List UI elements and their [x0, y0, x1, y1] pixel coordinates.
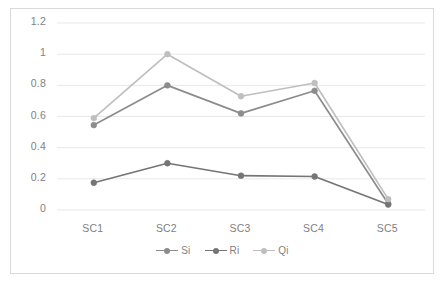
data-point-qi-sc3 — [238, 93, 244, 99]
data-point-si-sc4 — [312, 88, 318, 94]
legend-marker-icon — [205, 246, 227, 256]
y-axis-tick-label: 0 — [4, 202, 46, 214]
chart-plot-frame — [10, 8, 434, 274]
legend-marker-icon — [156, 246, 178, 256]
y-axis-tick-label: 1.2 — [4, 15, 46, 27]
data-point-ri-sc4 — [312, 174, 318, 180]
data-point-si-sc3 — [238, 110, 244, 116]
y-axis-tick-label: 0.8 — [4, 77, 46, 89]
y-axis-tick-label: 1 — [4, 46, 46, 58]
legend-label: Si — [181, 245, 190, 256]
series-line-si — [94, 85, 388, 203]
data-point-qi-sc4 — [312, 80, 318, 86]
data-point-ri-sc5 — [385, 202, 391, 208]
data-point-qi-sc5 — [385, 196, 391, 202]
legend-label: Qi — [278, 245, 288, 256]
data-point-qi-sc2 — [165, 51, 171, 57]
series-line-ri — [94, 163, 388, 204]
legend-item-si[interactable]: Si — [156, 245, 190, 256]
y-axis-tick-label: 0.2 — [4, 171, 46, 183]
y-axis-tick-label: 0.6 — [4, 109, 46, 121]
x-axis-tick-label: SC1 — [63, 222, 123, 234]
x-axis-tick-label: SC3 — [210, 222, 270, 234]
x-axis-tick-label: SC4 — [284, 222, 344, 234]
data-point-si-sc1 — [91, 122, 97, 128]
data-point-ri-sc3 — [238, 173, 244, 179]
data-point-ri-sc2 — [165, 160, 171, 166]
data-point-qi-sc1 — [91, 115, 97, 121]
legend-label: Ri — [230, 245, 240, 256]
data-point-ri-sc1 — [91, 180, 97, 186]
chart-legend: SiRiQi — [0, 245, 445, 256]
x-axis-tick-label: SC5 — [357, 222, 417, 234]
y-axis-tick-label: 0.4 — [4, 140, 46, 152]
chart-container: SiRiQi 00.20.40.60.811.2SC1SC2SC3SC4SC5 — [0, 0, 445, 287]
legend-marker-icon — [253, 246, 275, 256]
data-point-si-sc2 — [165, 82, 171, 88]
legend-item-qi[interactable]: Qi — [253, 245, 288, 256]
x-axis-tick-label: SC2 — [136, 222, 196, 234]
legend-item-ri[interactable]: Ri — [205, 245, 240, 256]
